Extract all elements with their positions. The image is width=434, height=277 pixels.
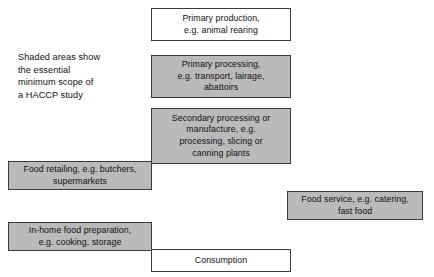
box-consumption: Consumption <box>151 249 291 272</box>
box-secondary-processing: Secondary processing or manufacture, e.g… <box>151 108 291 164</box>
shaded-areas-caption: Shaded areas show the essential minimum … <box>18 51 143 101</box>
box-inhome-food-preparation: In-home food preparation, e.g. cooking, … <box>8 222 152 251</box>
box-primary-processing: Primary processing, e.g. transport, lair… <box>151 55 291 98</box>
haccp-food-chain-diagram: Shaded areas show the essential minimum … <box>0 0 434 277</box>
box-food-retailing: Food retailing, e.g. butchers, supermark… <box>8 161 152 190</box>
box-primary-production: Primary production, e.g. animal rearing <box>151 8 291 41</box>
box-food-service: Food service, e.g. catering, fast food <box>287 191 423 220</box>
